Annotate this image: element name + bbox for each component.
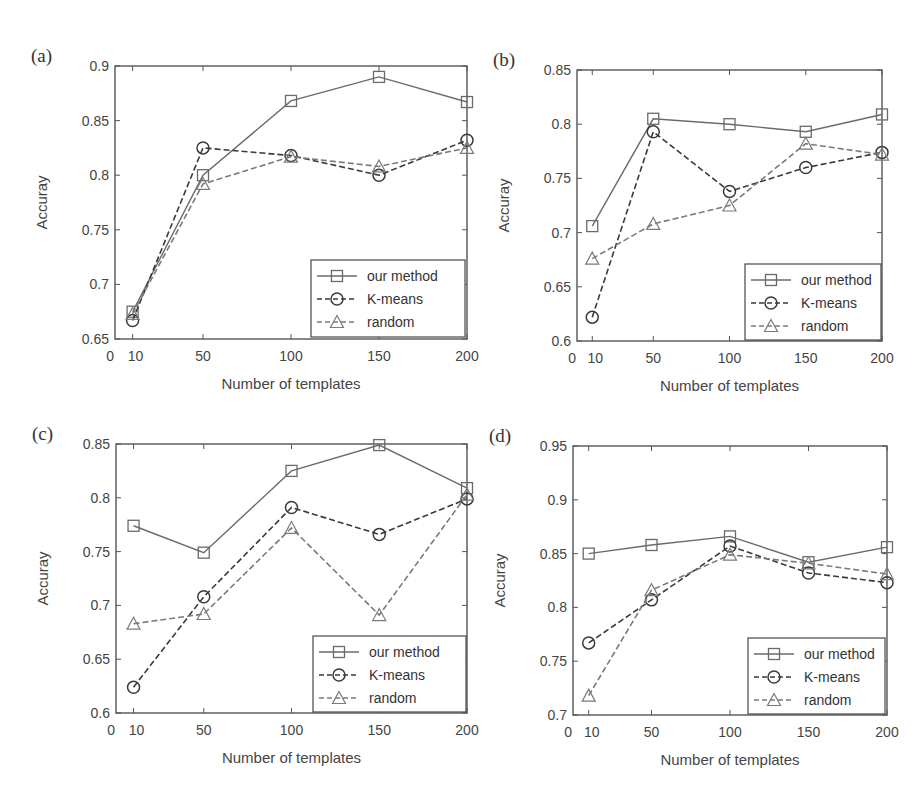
legend: our methodK-meansrandom: [311, 260, 465, 337]
x-tick-label: 150: [367, 348, 391, 364]
legend: our methodK-meansrandom: [745, 264, 881, 340]
x-axis-title: Number of templates: [660, 751, 799, 768]
y-tick-label: 0.75: [540, 653, 567, 669]
x-tick-label: 100: [280, 722, 304, 738]
x-tick-label: 150: [794, 350, 818, 366]
y-tick-label: 0.75: [83, 544, 110, 560]
y-tick-label: 0.8: [91, 490, 111, 506]
panel-label: (d): [489, 425, 511, 447]
series-random: [127, 488, 473, 629]
x-tick-label: 100: [279, 348, 303, 364]
legend: our methodK-meansrandom: [313, 636, 466, 712]
y-axis-title: Accuray: [491, 553, 508, 608]
legend-label: random: [369, 690, 416, 706]
legend-label: K-means: [367, 291, 423, 307]
y-tick-label: 0.95: [540, 438, 567, 454]
y-tick-label: 0.6: [552, 333, 572, 349]
y-tick-label: 0.9: [90, 58, 110, 74]
legend-label: K-means: [804, 669, 860, 685]
chart-panel-c: (c)0.60.650.70.750.80.8501050100150200Nu…: [32, 423, 479, 766]
y-tick-label: 0.75: [544, 170, 571, 186]
legend-label: our method: [804, 646, 875, 662]
legend-label: K-means: [369, 667, 425, 683]
x-tick-label: 0: [107, 722, 115, 738]
panel-label: (b): [493, 49, 515, 71]
y-tick-label: 0.65: [83, 651, 110, 667]
x-tick-label: 50: [196, 722, 212, 738]
x-tick-label: 0: [568, 350, 576, 366]
x-tick-label: 50: [645, 350, 661, 366]
x-axis-title: Number of templates: [222, 749, 361, 766]
panel-label: (a): [31, 45, 52, 67]
series-our-method: [587, 109, 888, 232]
x-tick-label: 100: [718, 724, 742, 740]
legend-label: random: [801, 318, 848, 334]
y-tick-label: 0.65: [544, 279, 571, 295]
figure: (a)0.650.70.750.80.850.901050100150200Nu…: [0, 0, 923, 807]
x-tick-label: 200: [870, 350, 894, 366]
y-tick-label: 0.8: [90, 167, 110, 183]
y-tick-label: 0.9: [548, 492, 568, 508]
x-tick-label: 150: [797, 724, 821, 740]
legend-label: our method: [369, 644, 440, 660]
series-our-method: [128, 440, 472, 559]
y-tick-label: 0.85: [82, 113, 109, 129]
y-tick-label: 0.7: [548, 707, 568, 723]
circle-marker: [373, 528, 385, 540]
y-tick-label: 0.8: [548, 599, 568, 615]
x-tick-label: 10: [128, 348, 144, 364]
y-tick-label: 0.6: [91, 705, 111, 721]
legend-label: random: [804, 692, 851, 708]
series-our-method: [583, 531, 892, 568]
y-tick-label: 0.7: [91, 597, 111, 613]
x-tick-label: 10: [129, 722, 145, 738]
y-tick-label: 0.65: [82, 331, 109, 347]
legend-label: our method: [801, 272, 872, 288]
y-axis-title: Accuray: [495, 178, 512, 233]
x-tick-label: 200: [875, 724, 899, 740]
y-tick-label: 0.85: [540, 546, 567, 562]
legend-label: K-means: [801, 295, 857, 311]
y-tick-label: 0.85: [544, 62, 571, 78]
x-tick-label: 50: [195, 348, 211, 364]
panel-label: (c): [32, 423, 53, 445]
chart-panel-b: (b)0.60.650.70.750.80.8501050100150200Nu…: [493, 49, 894, 394]
x-tick-label: 200: [455, 722, 479, 738]
y-tick-label: 0.7: [552, 225, 572, 241]
x-axis-title: Number of templates: [221, 375, 360, 392]
x-tick-label: 100: [718, 350, 742, 366]
y-axis-title: Accuray: [33, 175, 50, 230]
y-tick-label: 0.8: [552, 116, 572, 132]
chart-panel-a: (a)0.650.70.750.80.850.901050100150200Nu…: [31, 45, 479, 392]
x-tick-label: 0: [106, 348, 114, 364]
y-axis-title: Accuray: [34, 551, 51, 606]
y-tick-label: 0.85: [83, 436, 110, 452]
y-tick-label: 0.75: [82, 222, 109, 238]
x-tick-label: 150: [368, 722, 392, 738]
x-axis-title: Number of templates: [660, 377, 799, 394]
x-tick-label: 10: [584, 724, 600, 740]
legend: our methodK-meansrandom: [748, 638, 885, 714]
x-tick-label: 200: [455, 348, 479, 364]
circle-marker: [647, 126, 659, 138]
y-tick-label: 0.7: [90, 276, 110, 292]
x-tick-label: 10: [587, 350, 603, 366]
x-tick-label: 50: [644, 724, 660, 740]
circle-marker: [198, 591, 210, 603]
series-k-means: [583, 540, 893, 649]
x-tick-label: 0: [564, 724, 572, 740]
legend-label: our method: [367, 268, 438, 284]
legend-label: random: [367, 314, 414, 330]
chart-panel-d: (d)0.70.750.80.850.90.9501050100150200Nu…: [489, 425, 899, 768]
